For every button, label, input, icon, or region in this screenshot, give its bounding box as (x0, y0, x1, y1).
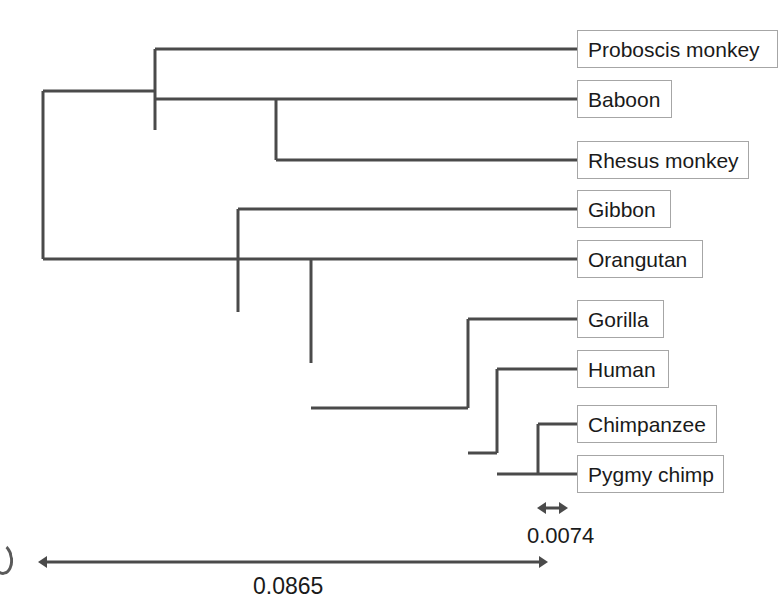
taxon-name-text: Proboscis monkey (588, 39, 760, 60)
taxon-name-text: Rhesus monkey (588, 150, 739, 171)
taxon-label-chimpanzee: Chimpanzee (577, 405, 717, 443)
scale-small-shaft (546, 507, 559, 510)
taxon-label-baboon: Baboon (577, 80, 672, 118)
taxon-name-text: Gorilla (588, 309, 649, 330)
scale-large-right-arrowhead (539, 556, 548, 568)
taxon-name-text: Human (588, 359, 656, 380)
taxon-label-pygmy-chimp: Pygmy chimp (577, 455, 724, 493)
taxon-label-proboscis-monkey: Proboscis monkey (577, 30, 778, 68)
taxon-label-rhesus-monkey: Rhesus monkey (577, 141, 749, 179)
scale-small-arrow (537, 502, 568, 514)
taxon-name-text: Chimpanzee (588, 414, 706, 435)
scale-large-arrow (38, 556, 548, 568)
scale-large-left-arrowhead (38, 556, 47, 568)
scale-bar-small-label: 0.0074 (527, 523, 594, 549)
taxon-label-orangutan: Orangutan (577, 240, 703, 278)
scale-bar-large-label: 0.0865 (253, 573, 323, 600)
taxon-name-text: Pygmy chimp (588, 464, 714, 485)
taxon-name-text: Orangutan (588, 249, 687, 270)
phylogenetic-tree-figure: Proboscis monkeyBaboonRhesus monkeyGibbo… (0, 0, 782, 612)
taxon-name-text: Baboon (588, 89, 660, 110)
taxon-name-text: Gibbon (588, 199, 656, 220)
scale-large-shaft (47, 561, 539, 564)
taxon-label-gorilla: Gorilla (577, 300, 664, 338)
taxon-label-gibbon: Gibbon (577, 190, 671, 228)
taxon-label-human: Human (577, 350, 669, 388)
scale-small-right-arrowhead (559, 502, 568, 514)
scale-small-left-arrowhead (537, 502, 546, 514)
